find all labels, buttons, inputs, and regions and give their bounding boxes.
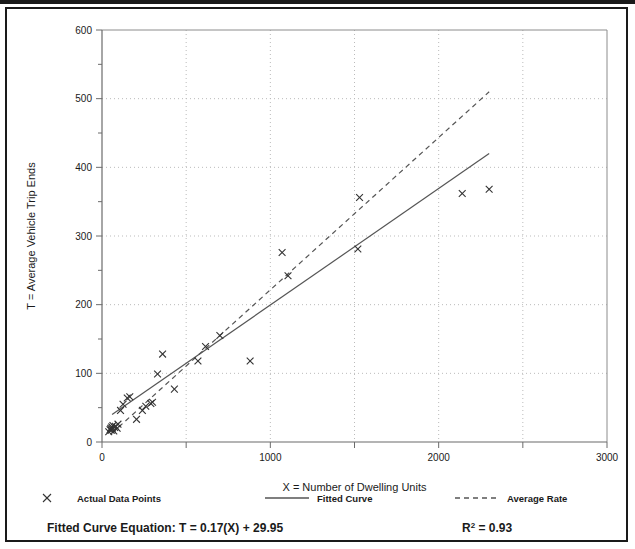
legend-x-marker-icon bbox=[43, 494, 51, 502]
data-point-marker bbox=[459, 190, 466, 197]
data-point-marker bbox=[154, 371, 161, 378]
data-point-marker bbox=[126, 393, 133, 400]
fitted-curve-line bbox=[112, 154, 489, 415]
x-axis-title: X = Number of Dwelling Units bbox=[283, 481, 427, 493]
y-axis-tick-label: 500 bbox=[75, 93, 92, 104]
y-axis-tick-label: 600 bbox=[75, 25, 92, 36]
data-point-marker bbox=[115, 421, 122, 428]
data-point-marker bbox=[171, 386, 178, 393]
y-axis-title: T = Average Vehicle Trip Ends bbox=[25, 162, 37, 310]
data-point-marker bbox=[354, 246, 361, 253]
y-axis-tick-label: 300 bbox=[75, 231, 92, 242]
y-axis-tick-label: 0 bbox=[86, 437, 92, 448]
average-rate-line bbox=[112, 92, 489, 433]
data-point-marker bbox=[486, 186, 493, 193]
chart-page: 01002003004005006000100020003000T = Aver… bbox=[0, 0, 635, 549]
legend-item-label: Fitted Curve bbox=[317, 493, 372, 504]
fitted-curve-equation: Fitted Curve Equation: T = 0.17(X) + 29.… bbox=[47, 521, 283, 535]
x-axis-tick-label: 3000 bbox=[596, 452, 619, 463]
x-axis-tick-label: 1000 bbox=[259, 452, 282, 463]
legend-item-label: Average Rate bbox=[507, 493, 567, 504]
data-point-marker bbox=[216, 332, 223, 339]
x-axis-tick-label: 0 bbox=[99, 452, 105, 463]
y-axis-tick-label: 100 bbox=[75, 368, 92, 379]
legend-item-label: Actual Data Points bbox=[77, 493, 161, 504]
data-point-marker bbox=[124, 395, 131, 402]
y-axis-tick-label: 400 bbox=[75, 162, 92, 173]
data-point-marker bbox=[133, 416, 140, 423]
data-point-marker bbox=[279, 249, 286, 256]
data-point-marker bbox=[356, 194, 363, 201]
scatter-chart: 01002003004005006000100020003000T = Aver… bbox=[7, 9, 630, 540]
y-axis-tick-label: 200 bbox=[75, 299, 92, 310]
data-point-marker bbox=[195, 358, 202, 365]
data-point-marker bbox=[159, 351, 166, 358]
x-axis-tick-label: 2000 bbox=[428, 452, 451, 463]
data-point-marker bbox=[247, 358, 254, 365]
r-squared-value: R2 = 0.93 bbox=[462, 521, 512, 535]
figure-frame: 01002003004005006000100020003000T = Aver… bbox=[5, 7, 628, 542]
top-edge-rule bbox=[0, 0, 635, 4]
